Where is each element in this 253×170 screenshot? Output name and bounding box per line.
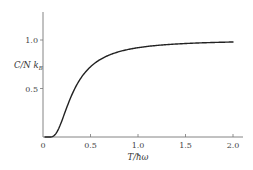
x-tick-label-0.5: 0.5 xyxy=(84,141,97,150)
x-tick-label-1.5: 1.5 xyxy=(179,141,192,150)
x-tick-label-1.0: 1.0 xyxy=(132,141,145,150)
x-tick-label-2.0: 2.0 xyxy=(227,141,240,150)
y-tick-label-0.5: 0.5 xyxy=(25,85,38,94)
y-axis-label-sub: B xyxy=(38,65,43,71)
heat-capacity-curve xyxy=(45,42,233,137)
y-tick-label-1.0: 1.0 xyxy=(25,36,38,45)
heat-capacity-chart: 1.0 0.5 0 0.5 1.0 1.5 2.0 C/N kB T/ħω xyxy=(0,0,253,170)
y-axis-label: C/N kB xyxy=(14,60,43,71)
x-axis-label: T/ħω xyxy=(128,152,149,162)
x-tick-label-0: 0 xyxy=(40,141,45,150)
y-axis-label-main: C/N xyxy=(14,60,34,70)
x-axis-label-sym: ħω xyxy=(136,152,148,162)
